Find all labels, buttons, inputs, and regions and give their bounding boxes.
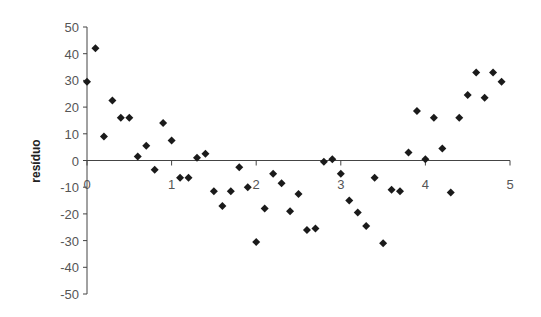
data-point-diamond xyxy=(168,136,176,144)
y-axis-title: resíduo xyxy=(29,139,43,182)
data-point-diamond xyxy=(108,96,116,104)
data-point-diamond xyxy=(244,183,252,191)
data-point-diamond xyxy=(404,148,412,156)
y-tick-label: 20 xyxy=(65,100,79,115)
data-point-diamond xyxy=(286,207,294,215)
data-point-diamond xyxy=(176,174,184,182)
y-tick-label: -50 xyxy=(60,287,79,302)
data-point-diamond xyxy=(210,187,218,195)
x-tick-label: 5 xyxy=(506,177,513,192)
data-point-diamond xyxy=(311,225,319,233)
data-point-diamond xyxy=(379,239,387,247)
data-point-diamond xyxy=(125,114,133,122)
x-tick-label: 2 xyxy=(253,177,260,192)
y-tick-label: 40 xyxy=(65,47,79,62)
data-point-diamond xyxy=(328,155,336,163)
data-point-diamond xyxy=(303,226,311,234)
data-point-diamond xyxy=(455,114,463,122)
data-point-diamond xyxy=(362,222,370,230)
data-point-diamond xyxy=(261,205,269,213)
x-tick-label: 4 xyxy=(422,177,429,192)
data-point-diamond xyxy=(227,187,235,195)
y-tick-label: -30 xyxy=(60,234,79,249)
data-point-diamond xyxy=(430,114,438,122)
data-point-diamond xyxy=(489,68,497,76)
data-point-diamond xyxy=(472,68,480,76)
y-tick-label: -10 xyxy=(60,180,79,195)
y-axis: 50403020100-10-20-30-40-50 xyxy=(60,20,87,302)
data-point-diamond xyxy=(464,91,472,99)
y-axis-label: resíduo xyxy=(29,139,43,182)
data-point-diamond xyxy=(117,114,125,122)
y-tick-label: 50 xyxy=(65,20,79,35)
data-point-diamond xyxy=(235,163,243,171)
data-point-diamond xyxy=(345,197,353,205)
data-point-diamond xyxy=(83,78,91,86)
data-point-diamond xyxy=(91,44,99,52)
x-tick-label: 3 xyxy=(337,177,344,192)
y-tick-label: -20 xyxy=(60,207,79,222)
data-point-diamond xyxy=(201,150,209,158)
data-point-diamond xyxy=(498,78,506,86)
data-point-diamond xyxy=(371,174,379,182)
data-points xyxy=(83,44,506,247)
data-point-diamond xyxy=(354,209,362,217)
data-point-diamond xyxy=(295,190,303,198)
data-point-diamond xyxy=(320,158,328,166)
data-point-diamond xyxy=(151,166,159,174)
data-point-diamond xyxy=(388,186,396,194)
data-point-diamond xyxy=(252,238,260,246)
data-point-diamond xyxy=(218,202,226,210)
x-tick-label: 1 xyxy=(168,177,175,192)
data-point-diamond xyxy=(481,94,489,102)
data-point-diamond xyxy=(185,174,193,182)
data-point-diamond xyxy=(438,144,446,152)
data-point-diamond xyxy=(100,132,108,140)
data-point-diamond xyxy=(413,107,421,115)
y-tick-label: 10 xyxy=(65,127,79,142)
x-axis: 012345 xyxy=(83,161,513,192)
data-point-diamond xyxy=(447,189,455,197)
data-point-diamond xyxy=(421,155,429,163)
data-point-diamond xyxy=(278,179,286,187)
data-point-diamond xyxy=(269,170,277,178)
data-point-diamond xyxy=(134,152,142,160)
residual-scatter-chart: resíduo 50403020100-10-20-30-40-50 01234… xyxy=(0,0,541,317)
data-point-diamond xyxy=(142,142,150,150)
data-point-diamond xyxy=(396,187,404,195)
y-tick-label: -40 xyxy=(60,260,79,275)
data-point-diamond xyxy=(159,119,167,127)
x-tick-label: 0 xyxy=(83,177,90,192)
y-tick-label: 30 xyxy=(65,73,79,88)
y-tick-label: 0 xyxy=(72,154,79,169)
